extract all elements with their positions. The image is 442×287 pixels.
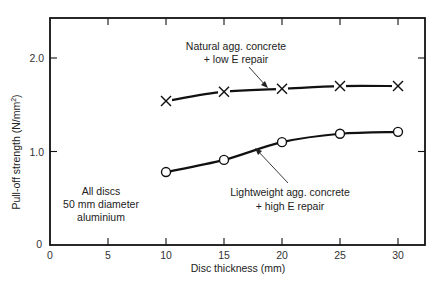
x-tick-label: 5 xyxy=(105,249,111,261)
annotation-natural: Natural agg. concrete + low E repair xyxy=(186,40,287,88)
x-tick-label: 15 xyxy=(218,249,230,261)
circle-marker xyxy=(278,138,287,147)
x-tick-label: 20 xyxy=(276,249,288,261)
annotation-natural-line2: + low E repair xyxy=(204,53,269,65)
circle-marker xyxy=(394,127,403,136)
annotation-lightweight-arrow xyxy=(257,150,288,183)
x-tick-label: 0 xyxy=(47,249,53,261)
x-tick-label: 10 xyxy=(160,249,172,261)
annotation-natural-line1: Natural agg. concrete xyxy=(186,40,287,52)
annotation-lightweight-line1: Lightweight agg. concrete xyxy=(230,186,350,198)
y-tick-label: 1.0 xyxy=(29,146,44,158)
data-markers xyxy=(160,80,404,177)
circle-marker xyxy=(220,155,229,164)
annotation-lightweight: Lightweight agg. concrete + high E repai… xyxy=(230,148,350,212)
circle-marker xyxy=(162,168,171,177)
x-tick-label: 25 xyxy=(334,249,346,261)
cross-marker xyxy=(276,83,288,95)
annotation-disc-line1: All discs xyxy=(82,185,121,197)
y-axis-label: Pull-off strength (N/mm2) xyxy=(10,94,22,209)
y-tick-label: 2.0 xyxy=(29,52,44,64)
circle-marker xyxy=(336,129,345,138)
pull-off-strength-chart: 05101520253001.02.0 Disc thickness (mm) … xyxy=(0,0,442,287)
tick-labels: 05101520253001.02.0 xyxy=(29,52,404,261)
cross-marker xyxy=(392,80,404,92)
data-curves xyxy=(166,86,398,172)
cross-marker xyxy=(218,86,230,98)
cross-marker xyxy=(334,80,346,92)
y-tick-label: 0 xyxy=(36,238,42,250)
cross-marker xyxy=(160,95,172,107)
x-axis-label: Disc thickness (mm) xyxy=(191,262,286,274)
x-tick-label: 30 xyxy=(392,249,404,261)
annotation-disc-info: All discs 50 mm diameter aluminium xyxy=(63,185,139,223)
annotation-disc-line3: aluminium xyxy=(77,211,125,223)
annotation-disc-line2: 50 mm diameter xyxy=(63,198,139,210)
y-axis-label-main: Pull-off strength (N/mm xyxy=(10,102,22,210)
y-axis-label-close: ) xyxy=(10,94,22,98)
annotation-lightweight-line2: + high E repair xyxy=(256,200,325,212)
